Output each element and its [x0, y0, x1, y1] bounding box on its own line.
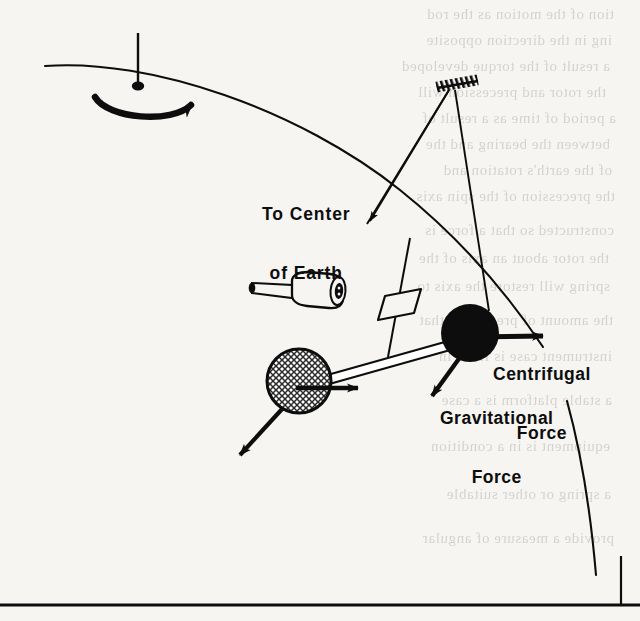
- cross-hatched-sphere: [267, 349, 331, 413]
- label-gravitational-force: Gravitational Force: [440, 370, 553, 527]
- label-gravitational-force-line2: Force: [440, 468, 553, 488]
- label-to-center-of-earth-line1: To Center: [262, 205, 350, 225]
- scanned-page: tion of the motion as the rod ing in the…: [0, 0, 640, 621]
- suspension-wire-right: [455, 90, 489, 311]
- label-gravitational-force-line1: Gravitational: [440, 409, 553, 429]
- hatched-mass-gravity-arrow: [240, 408, 283, 455]
- label-to-center-of-earth-line2: of Earth: [262, 264, 350, 284]
- label-to-center-of-earth: To Center of Earth: [262, 166, 350, 323]
- plumb-weight-parallelogram: [378, 289, 421, 320]
- solid-black-sphere: [441, 304, 499, 362]
- pivot-dot: [132, 81, 144, 90]
- curved-rotation-arrow: [95, 97, 191, 117]
- to-center-of-earth-arrow: [370, 90, 449, 221]
- hatched-ceiling-bracket: [435, 74, 478, 92]
